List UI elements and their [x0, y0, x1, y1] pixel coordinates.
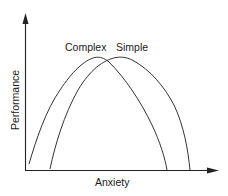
yerkes-dodson-chart: Complex Simple Anxiety Performance [0, 0, 228, 196]
simple-label: Simple [116, 41, 148, 53]
complex-curve [29, 57, 167, 170]
complex-label: Complex [65, 41, 107, 53]
x-axis-title: Anxiety [95, 176, 130, 188]
x-axis-arrow-icon [207, 168, 219, 174]
y-axis-arrow-icon [23, 13, 29, 24]
y-axis-title: Performance [9, 70, 21, 130]
y-axis [23, 13, 29, 170]
